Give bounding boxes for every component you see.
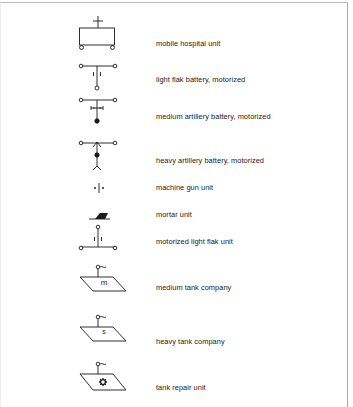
medium-artillery-battery-icon xyxy=(78,96,118,126)
heavy-artillery-battery-icon xyxy=(78,138,118,174)
legend-label: mobile hospital unit xyxy=(156,39,220,49)
legend-label: light flak battery, motorized xyxy=(156,75,245,85)
mobile-hospital-icon xyxy=(78,14,118,54)
legend-label: heavy tank company xyxy=(156,337,225,347)
light-flak-battery-icon xyxy=(78,62,118,92)
mortar-icon xyxy=(86,208,112,222)
gear-icon xyxy=(99,378,107,386)
legend-label: medium artillery battery, motorized xyxy=(156,112,271,122)
heavy-tank-icon: s xyxy=(78,314,128,348)
heavy-tank-mark: s xyxy=(98,328,110,335)
medium-tank-icon: m xyxy=(78,264,128,298)
legend-label: motorized light flak unit xyxy=(156,237,233,247)
tank-repair-icon xyxy=(78,360,128,396)
legend-label: machine gun unit xyxy=(156,183,213,193)
legend-label: heavy artillery battery, motorized xyxy=(156,156,264,166)
legend-label: tank repair unit xyxy=(156,383,206,393)
machine-gun-icon xyxy=(92,181,106,195)
motorized-light-flak-icon xyxy=(78,223,118,253)
legend-label: medium tank company xyxy=(156,283,231,293)
medium-tank-mark: m xyxy=(98,278,110,287)
legend-label: mortar unit xyxy=(156,210,192,220)
